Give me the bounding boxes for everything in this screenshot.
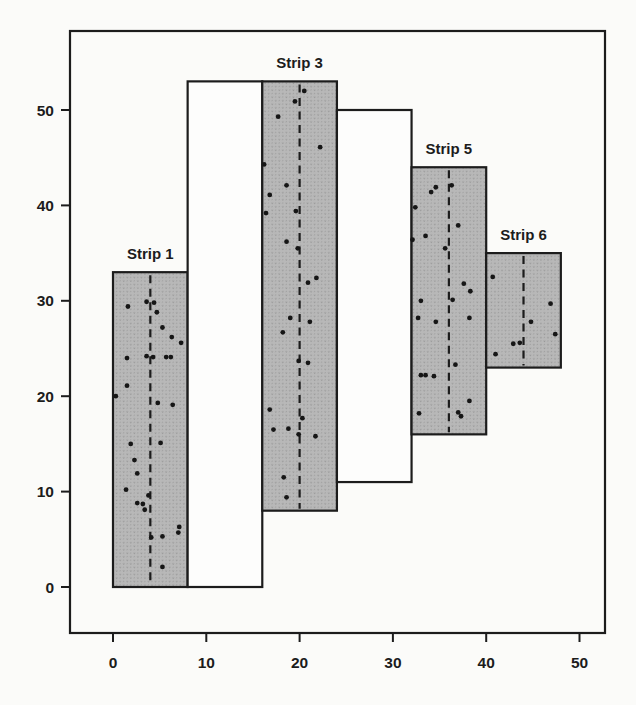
data-point xyxy=(490,275,495,280)
strip-5-group: Strip 5 xyxy=(410,140,486,434)
data-point xyxy=(169,335,174,340)
data-point xyxy=(429,190,434,195)
data-point xyxy=(417,411,422,416)
data-point xyxy=(154,310,159,315)
data-point xyxy=(423,234,428,239)
y-tick-label-10: 10 xyxy=(37,483,54,500)
data-point xyxy=(493,352,498,357)
data-point xyxy=(177,524,182,529)
data-point xyxy=(284,495,289,500)
data-point xyxy=(306,360,311,365)
data-point xyxy=(296,432,301,437)
data-point xyxy=(307,319,312,324)
y-tick-label-0: 0 xyxy=(45,579,54,596)
data-point xyxy=(517,340,522,345)
data-point xyxy=(300,416,305,421)
x-tick-label-30: 30 xyxy=(384,654,401,671)
data-point xyxy=(267,407,272,412)
data-point xyxy=(296,359,301,364)
data-point xyxy=(267,193,272,198)
data-point xyxy=(511,341,516,346)
data-point xyxy=(113,394,118,399)
data-point xyxy=(144,299,149,304)
data-point xyxy=(155,400,160,405)
data-point xyxy=(418,298,423,303)
data-point xyxy=(176,530,181,535)
data-point xyxy=(433,185,438,190)
data-point xyxy=(126,304,131,309)
x-tick-label-0: 0 xyxy=(109,654,118,671)
data-point xyxy=(467,316,472,321)
strip-3-group: Strip 3 xyxy=(262,54,337,510)
strip-6-label: Strip 6 xyxy=(500,226,547,243)
data-point xyxy=(529,319,534,324)
data-point xyxy=(295,246,300,251)
data-point xyxy=(302,89,307,94)
data-point xyxy=(146,493,151,498)
data-point xyxy=(468,289,473,294)
data-point xyxy=(453,362,458,367)
data-point xyxy=(170,402,175,407)
data-point xyxy=(276,114,281,119)
strip-2-unsampled-rect xyxy=(188,81,263,587)
data-point xyxy=(293,99,298,104)
data-point xyxy=(432,374,437,379)
data-point xyxy=(443,246,448,251)
data-point xyxy=(418,373,423,378)
data-point xyxy=(314,276,319,281)
data-point xyxy=(450,297,455,302)
data-point xyxy=(456,223,461,228)
data-point xyxy=(151,355,156,360)
data-point xyxy=(467,399,472,404)
data-point xyxy=(449,183,454,188)
data-point xyxy=(179,340,184,345)
data-point xyxy=(144,354,149,359)
strip-plot-canvas: Strip 1Strip 3Strip 5Strip 6010203040500… xyxy=(0,0,636,705)
data-point xyxy=(313,434,318,439)
data-point xyxy=(158,441,163,446)
data-point xyxy=(152,300,157,305)
data-point xyxy=(423,373,428,378)
data-point xyxy=(306,280,311,285)
data-point xyxy=(164,355,169,360)
data-point xyxy=(149,535,154,540)
strip-transect-figure: Strip 1Strip 3Strip 5Strip 6010203040500… xyxy=(0,0,636,705)
x-tick-label-10: 10 xyxy=(198,654,215,671)
data-point xyxy=(416,316,421,321)
strip-4-unsampled-rect xyxy=(337,110,412,482)
data-point xyxy=(281,475,286,480)
data-point xyxy=(160,534,165,539)
strip-1-label: Strip 1 xyxy=(127,245,174,262)
data-point xyxy=(160,325,165,330)
data-point xyxy=(553,332,558,337)
data-point xyxy=(125,383,130,388)
y-tick-label-20: 20 xyxy=(37,388,54,405)
data-point xyxy=(548,301,553,306)
data-point xyxy=(142,507,147,512)
data-point xyxy=(135,501,140,506)
data-point xyxy=(456,410,461,415)
data-point xyxy=(284,183,289,188)
data-point xyxy=(140,502,145,507)
data-point xyxy=(160,565,165,570)
data-point xyxy=(410,237,415,242)
data-point xyxy=(293,209,298,214)
data-point xyxy=(286,426,291,431)
y-tick-label-50: 50 xyxy=(37,102,54,119)
data-point xyxy=(271,427,276,432)
data-point xyxy=(284,239,289,244)
data-point xyxy=(413,205,418,210)
data-point xyxy=(128,442,133,447)
strip-5-label: Strip 5 xyxy=(426,140,473,157)
y-tick-label-30: 30 xyxy=(37,292,54,309)
data-point xyxy=(168,355,173,360)
y-tick-label-40: 40 xyxy=(37,197,54,214)
data-point xyxy=(262,162,267,167)
x-tick-label-20: 20 xyxy=(291,654,308,671)
data-point xyxy=(459,414,464,419)
data-point xyxy=(318,145,323,150)
strip-1-group: Strip 1 xyxy=(113,245,188,587)
data-point xyxy=(461,281,466,286)
data-point xyxy=(433,319,438,324)
strip-3-label: Strip 3 xyxy=(276,54,323,71)
